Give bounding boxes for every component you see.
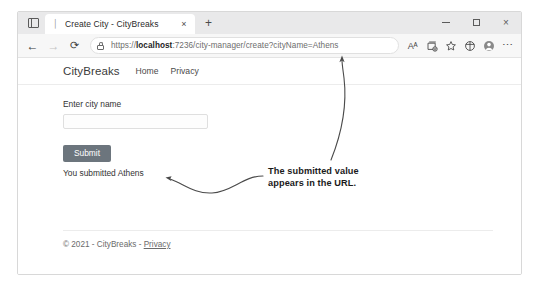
browser-toolbar: ← → ⟳ https://localhost:7236/city-manage… [18, 34, 521, 58]
settings-and-more-icon[interactable]: ⋯ [498, 36, 517, 55]
close-window-button[interactable]: × [491, 12, 521, 33]
page-icon: │ [51, 20, 60, 29]
window-controls: × [431, 12, 521, 34]
back-button[interactable]: ← [22, 35, 43, 56]
profile-avatar-icon[interactable] [479, 36, 498, 55]
browser-tab[interactable]: │ Create City - CityBreaks × [45, 14, 195, 34]
nav-link-home[interactable]: Home [136, 66, 159, 76]
site-navbar: CityBreaks Home Privacy [18, 58, 521, 85]
browser-essentials-icon[interactable] [460, 36, 479, 55]
tab-strip: │ Create City - CityBreaks × + × [18, 12, 521, 34]
reload-button[interactable]: ⟳ [64, 35, 85, 56]
submission-result-text: You submitted Athens [63, 168, 521, 178]
city-name-input[interactable] [63, 114, 208, 129]
page-footer: © 2021 - CityBreaks - Privacy [63, 240, 171, 249]
minimize-button[interactable] [431, 12, 461, 33]
browser-window: │ Create City - CityBreaks × + × ← → ⟳ h… [17, 11, 522, 275]
tab-title: Create City - CityBreaks [65, 19, 178, 29]
page-content: Enter city name Submit You submitted Ath… [18, 85, 521, 178]
vertical-tabs-icon[interactable] [24, 14, 42, 32]
close-icon: × [503, 18, 509, 28]
nav-link-privacy[interactable]: Privacy [171, 66, 199, 76]
footer-privacy-link[interactable]: Privacy [144, 240, 171, 249]
url-host: localhost [136, 41, 172, 50]
footer-copyright: © 2021 - CityBreaks - [63, 240, 144, 249]
favorites-star-icon[interactable] [441, 36, 460, 55]
collections-icon[interactable] [422, 36, 441, 55]
site-brand[interactable]: CityBreaks [63, 65, 120, 77]
footer-divider [63, 230, 493, 231]
new-tab-button[interactable]: + [200, 15, 217, 32]
close-icon[interactable]: × [178, 18, 190, 30]
read-aloud-icon[interactable]: Aᴬ [403, 36, 422, 55]
forward-button[interactable]: → [43, 35, 64, 56]
url-text: https://localhost:7236/city-manager/crea… [111, 41, 393, 50]
maximize-button[interactable] [461, 12, 491, 33]
city-name-label: Enter city name [63, 99, 521, 109]
address-bar[interactable]: https://localhost:7236/city-manager/crea… [90, 37, 399, 54]
lock-icon[interactable] [96, 41, 105, 50]
submit-button[interactable]: Submit [63, 145, 111, 162]
page-viewport: CityBreaks Home Privacy Enter city name … [18, 58, 521, 274]
